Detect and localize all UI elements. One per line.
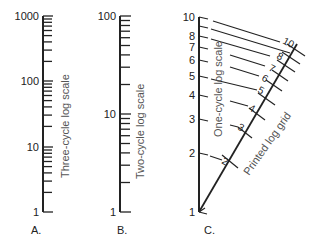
scale-a-label-1: 1 [33, 206, 39, 218]
scale-c-label-10: 10 [183, 11, 195, 23]
scale-a-ticks [43, 16, 53, 212]
panel-b-letter: B. [117, 224, 127, 236]
scale-c-label-1: 1 [189, 206, 195, 218]
panel-c-letter: C. [204, 224, 215, 236]
scale-b-label-10: 10 [104, 108, 116, 120]
scale-c-label-5: 5 [189, 70, 195, 82]
grid-label-5: 5 [256, 84, 266, 97]
scale-c-label-7: 7 [189, 41, 195, 53]
scale-c-diagonal-caption: Printed log grid [241, 110, 293, 178]
grid-label-8: 8 [275, 50, 285, 63]
scale-a-label-1000: 1000 [15, 10, 39, 22]
panel-b [120, 16, 131, 212]
log-scales-diagram: 1000 100 10 1 Three-cycle log scale A. [0, 0, 324, 244]
scale-b-label-100: 100 [98, 10, 116, 22]
scale-c-label-3: 3 [189, 113, 195, 125]
scale-b-caption: Two-cycle log scale [134, 84, 146, 179]
scale-a-caption: Three-cycle log scale [59, 74, 71, 178]
scale-a-label-100: 100 [21, 75, 39, 87]
panel-a [43, 16, 53, 212]
scale-c-vertical-caption: One-cycle log scale [212, 41, 224, 137]
scale-b-ticks [120, 16, 131, 212]
scale-c-label-4: 4 [189, 89, 195, 101]
scale-a-label-10: 10 [27, 141, 39, 153]
scale-c-label-2: 2 [189, 147, 195, 159]
scale-b-label-1: 1 [110, 206, 116, 218]
scale-c-label-6: 6 [189, 54, 195, 66]
panel-a-letter: A. [31, 224, 41, 236]
